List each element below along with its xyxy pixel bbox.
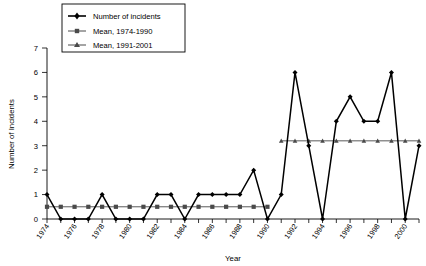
x-tick-label: 1984 [172, 222, 189, 241]
y-tick-label: 7 [34, 44, 38, 53]
x-tick-label: 1998 [365, 222, 382, 241]
data-point-mean-1974-1990 [100, 205, 104, 209]
x-tick-label: 1992 [282, 222, 299, 241]
data-point-mean-1974-1990 [59, 205, 63, 209]
y-tick-label: 6 [34, 68, 38, 77]
data-point-mean-1974-1990 [196, 205, 200, 209]
series-line-number-of-incidents [47, 72, 419, 219]
x-tick-group [47, 219, 419, 223]
legend-marker-square-icon [75, 29, 79, 33]
y-axis-group: 01234567 Number of Incidents [7, 44, 47, 224]
data-point-incidents [375, 119, 380, 124]
data-point-mean-1974-1990 [252, 205, 256, 209]
y-tick-label: 2 [34, 166, 38, 175]
data-point-incidents [210, 192, 215, 197]
y-tick-group: 01234567 [34, 44, 47, 224]
data-point-incidents [224, 192, 229, 197]
data-point-incidents [320, 217, 325, 222]
x-tick-label-group: 1974197619781980198219841986198819901992… [34, 222, 409, 241]
data-point-mean-1974-1990 [72, 205, 76, 209]
x-axis-title: Year [225, 254, 241, 263]
y-axis-title: Number of Incidents [7, 99, 16, 169]
legend-label-incidents: Number of incidents [93, 12, 161, 21]
x-tick-label: 1986 [200, 222, 217, 241]
incidents-line-chart: 01234567 Number of Incidents 19741976197… [0, 0, 426, 266]
data-point-incidents [293, 70, 298, 75]
data-point-incidents [403, 217, 408, 222]
y-tick-label: 4 [34, 117, 38, 126]
data-point-mean-1974-1990 [155, 205, 159, 209]
x-tick-label: 1976 [62, 222, 79, 241]
data-point-mean-1974-1990 [128, 205, 132, 209]
x-tick-label: 1978 [89, 222, 106, 241]
legend-label-mean1: Mean, 1974-1990 [93, 27, 153, 36]
data-point-incidents [306, 143, 311, 148]
y-tick-label: 5 [34, 93, 38, 102]
data-point-mean-1974-1990 [86, 205, 90, 209]
y-tick-label: 3 [34, 142, 38, 151]
chart-container: 01234567 Number of Incidents 19741976197… [0, 0, 426, 266]
data-point-mean-1974-1990 [169, 205, 173, 209]
x-tick-label: 1974 [34, 222, 51, 241]
x-tick-label: 1982 [145, 222, 162, 241]
data-point-incidents [417, 143, 422, 148]
data-point-mean-1974-1990 [114, 205, 118, 209]
x-tick-label: 1996 [337, 222, 354, 241]
x-tick-label: 1990 [255, 222, 272, 241]
data-point-mean-1974-1990 [183, 205, 187, 209]
series-markers-number-of-incidents [45, 70, 422, 222]
data-point-mean-1974-1990 [238, 205, 242, 209]
x-tick-label: 2000 [393, 222, 410, 241]
x-tick-label: 1980 [117, 222, 134, 241]
y-tick-label: 0 [34, 215, 38, 224]
data-point-mean-1974-1990 [141, 205, 145, 209]
data-point-mean-1974-1990 [224, 205, 228, 209]
series-group [45, 70, 422, 222]
x-tick-label: 1988 [227, 222, 244, 241]
data-point-mean-1974-1990 [210, 205, 214, 209]
data-point-mean-1974-1990 [265, 205, 269, 209]
x-tick-label: 1994 [310, 222, 327, 241]
data-point-incidents [389, 70, 394, 75]
data-point-mean-1974-1990 [45, 205, 49, 209]
data-point-incidents [72, 217, 77, 222]
x-axis-group: 1974197619781980198219841986198819901992… [34, 219, 419, 263]
legend: Number of incidents Mean, 1974-1990 Mean… [62, 4, 185, 52]
y-tick-label: 1 [34, 190, 38, 199]
legend-label-mean2: Mean, 1991-2001 [93, 41, 153, 50]
data-point-incidents [127, 217, 132, 222]
